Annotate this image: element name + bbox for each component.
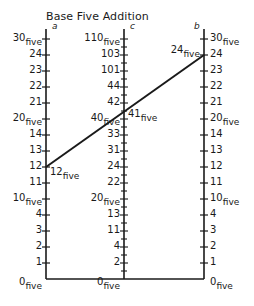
axis-b-label: 1 <box>210 257 216 267</box>
axis-b-letter: b <box>194 21 200 31</box>
axis-b-label: 13 <box>210 145 223 155</box>
axis-b-label: 11 <box>210 177 223 187</box>
axis-c-letter: c <box>130 21 135 31</box>
axis-b-label: 2 <box>210 241 216 251</box>
example-c-label: 41five <box>128 109 157 119</box>
axis-c-label: 24 <box>107 161 120 171</box>
axis-b-label: 10five <box>210 193 239 203</box>
axis-b-label: 14 <box>210 129 223 139</box>
example-line <box>46 55 204 167</box>
axis-c-label: 11 <box>107 225 120 235</box>
axis-a-label: 30five <box>13 33 42 43</box>
axis-b-label: 30five <box>210 33 239 43</box>
axis-c-label: 44 <box>107 81 120 91</box>
axis-c-label: 20five <box>91 193 120 203</box>
axis-a-label: 23 <box>29 65 42 75</box>
axis-a-label: 0five <box>19 277 42 287</box>
axis-a-label: 24 <box>29 49 42 59</box>
axis-b-label: 20five <box>210 113 239 123</box>
axis-b-label: 3 <box>210 225 216 235</box>
axis-c-label: 40five <box>91 113 120 123</box>
axis-c-label: 110five <box>84 33 120 43</box>
axis-b-label: 0five <box>210 277 233 287</box>
axis-b-label: 12 <box>210 161 223 171</box>
axis-c-label: 33 <box>107 129 120 139</box>
axis-c-label: 4 <box>114 241 120 251</box>
axis-a-label: 4 <box>36 209 42 219</box>
axis-c-label: 31 <box>107 145 120 155</box>
axis-a-label: 3 <box>36 225 42 235</box>
axis-b-label: 21 <box>210 97 223 107</box>
axis-a-label: 1 <box>36 257 42 267</box>
axis-a-letter: a <box>52 21 58 31</box>
axis-a-label: 21 <box>29 97 42 107</box>
axis-a-label: 2 <box>36 241 42 251</box>
axis-a-label: 14 <box>29 129 42 139</box>
axis-a-label: 12 <box>29 161 42 171</box>
axis-a-label: 20five <box>13 113 42 123</box>
axis-c-label: 2 <box>114 257 120 267</box>
axis-b-label: 22 <box>210 81 223 91</box>
axis-c-label: 103 <box>101 49 120 59</box>
axis-c-label: 0five <box>97 277 120 287</box>
example-a-label: 12five <box>50 167 79 177</box>
axis-c-label: 42 <box>107 97 120 107</box>
axis-b-label: 4 <box>210 209 216 219</box>
axis-b-label: 23 <box>210 65 223 75</box>
axis-c-label: 22 <box>107 177 120 187</box>
axis-a-label: 22 <box>29 81 42 91</box>
example-b-label: 24five <box>171 45 200 55</box>
axis-a-label: 11 <box>29 177 42 187</box>
axis-b-label: 24 <box>210 49 223 59</box>
axis-a-label: 13 <box>29 145 42 155</box>
axis-a-label: 10five <box>13 193 42 203</box>
axis-c-label: 101 <box>101 65 120 75</box>
axis-c-label: 13 <box>107 209 120 219</box>
